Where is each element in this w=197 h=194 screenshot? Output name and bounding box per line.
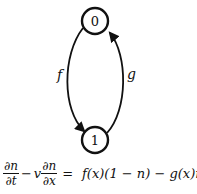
node-0: 0 [82, 8, 108, 34]
edge-label-f: f [56, 67, 65, 83]
minus-sign: − [21, 166, 32, 181]
equals-sign: = [62, 166, 73, 181]
edge-label-g: g [127, 66, 136, 82]
fraction-denominator: ∂x [43, 174, 56, 187]
velocity-symbol: v [34, 166, 41, 181]
pde-equation: ∂n ∂t − v ∂n ∂x = f(x)(1 − n) − g(x)n [3, 158, 197, 188]
fraction-dn-dx: ∂n ∂x [41, 160, 57, 187]
edge-f-arrow [67, 28, 84, 131]
node-1: 1 [82, 127, 108, 153]
fraction-denominator: ∂t [5, 174, 16, 187]
edge-g-arrow [107, 33, 123, 133]
fraction-numerator: ∂n [41, 160, 57, 174]
fraction-numerator: ∂n [3, 160, 19, 174]
node-0-label: 0 [91, 14, 99, 29]
equation-rhs: f(x)(1 − n) − g(x)n [82, 166, 197, 181]
fraction-dn-dt: ∂n ∂t [3, 160, 19, 187]
node-1-label: 1 [91, 133, 99, 148]
